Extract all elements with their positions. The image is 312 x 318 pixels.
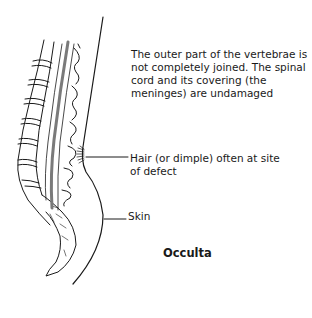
spinal-canal-back: [58, 44, 74, 210]
sacrum-detail: [50, 206, 68, 256]
vertebral-discs: [18, 60, 52, 188]
skin-label: Skin: [128, 210, 150, 223]
spinal-canal-front: [45, 44, 62, 200]
skin-outline: [73, 17, 103, 284]
description-label: The outer part of the vertebrae is not c…: [131, 48, 309, 100]
hair-label: Hair (or dimple) often at site of defect: [130, 152, 280, 178]
diagram-title: Occulta: [163, 247, 212, 260]
sacrum: [42, 195, 76, 276]
spinal-cord: [51, 42, 68, 208]
